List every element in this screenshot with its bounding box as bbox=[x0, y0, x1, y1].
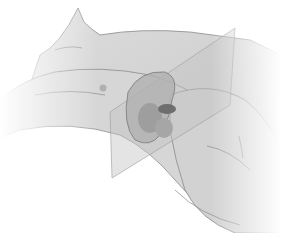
anatomical-illustration bbox=[0, 0, 281, 233]
fade-right bbox=[0, 0, 281, 233]
